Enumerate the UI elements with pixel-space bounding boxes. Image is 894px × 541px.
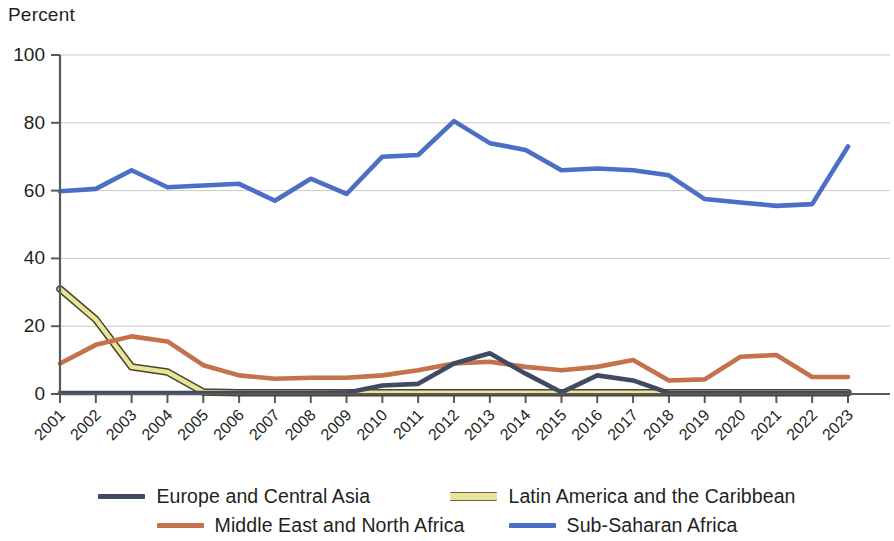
x-tick-label: 2008 [282, 406, 319, 443]
chart-legend: Europe and Central Asia Latin America an… [0, 485, 894, 537]
x-tick-label: 2006 [210, 406, 247, 443]
x-tick-label: 2007 [246, 406, 283, 443]
legend-item-latin-america-and-the-caribbean[interactable]: Latin America and the Caribbean [450, 485, 795, 508]
y-tick-label: 40 [24, 247, 45, 268]
y-tick-label: 80 [24, 112, 45, 133]
x-axis-tick-labels: 2001200220032004200520062007200820092010… [31, 406, 856, 443]
x-tick-label: 2012 [425, 406, 462, 443]
legend-label-sub-saharan-africa: Sub-Saharan Africa [567, 514, 738, 537]
x-tick-label: 2018 [640, 406, 677, 443]
y-tick-label: 100 [13, 44, 45, 65]
y-tick-label: 0 [34, 383, 45, 404]
legend-swatch-middle-east-and-north-africa [157, 523, 204, 528]
legend-item-europe-and-central-asia[interactable]: Europe and Central Asia [98, 485, 450, 508]
y-tick-label: 60 [24, 180, 45, 201]
x-tick-label: 2023 [819, 406, 856, 443]
series-line-sub-saharan-africa[interactable] [60, 121, 848, 206]
legend-label-europe-and-central-asia: Europe and Central Asia [156, 485, 370, 508]
x-tick-label: 2001 [31, 406, 68, 443]
x-tick-label: 2010 [353, 406, 390, 443]
x-tick-label: 2021 [747, 406, 784, 443]
x-tick-label: 2020 [711, 406, 748, 443]
x-tick-label: 2009 [317, 406, 354, 443]
x-tick-label: 2015 [532, 406, 569, 443]
plot-area: 020406080100 200120022003200420052006200… [0, 0, 894, 541]
gridlines [60, 55, 890, 326]
x-tick-label: 2017 [604, 406, 641, 443]
y-axis-tick-labels: 020406080100 [13, 44, 45, 404]
legend-swatch-latin-america-and-the-caribbean [450, 492, 497, 501]
x-tick-label: 2022 [783, 406, 820, 443]
x-tick-label: 2013 [461, 406, 498, 443]
data-series [60, 121, 848, 393]
legend-label-latin-america-and-the-caribbean: Latin America and the Caribbean [508, 485, 795, 508]
x-tick-label: 2003 [103, 406, 140, 443]
x-tick-label: 2014 [497, 406, 534, 443]
legend-item-sub-saharan-africa[interactable]: Sub-Saharan Africa [509, 514, 738, 537]
legend-row-1: Europe and Central Asia Latin America an… [98, 485, 795, 508]
legend-row-2: Middle East and North Africa Sub-Saharan… [157, 514, 738, 537]
line-chart: Percent 020406080100 2001200220032004200… [0, 0, 894, 541]
x-tick-label: 2019 [676, 406, 713, 443]
y-tick-label: 20 [24, 315, 45, 336]
legend-swatch-europe-and-central-asia [98, 494, 145, 499]
series-line-europe-and-central-asia[interactable] [60, 353, 848, 393]
y-axis-ticks [51, 55, 60, 394]
legend-item-middle-east-and-north-africa[interactable]: Middle East and North Africa [157, 514, 509, 537]
series-line-latin-america-and-the-caribbean[interactable] [60, 289, 848, 393]
x-tick-label: 2011 [390, 406, 426, 442]
legend-swatch-sub-saharan-africa [509, 523, 556, 528]
x-tick-label: 2005 [174, 406, 211, 443]
legend-label-middle-east-and-north-africa: Middle East and North Africa [215, 514, 465, 537]
x-tick-label: 2002 [67, 406, 104, 443]
x-tick-label: 2016 [568, 406, 605, 443]
x-tick-label: 2004 [138, 406, 175, 443]
